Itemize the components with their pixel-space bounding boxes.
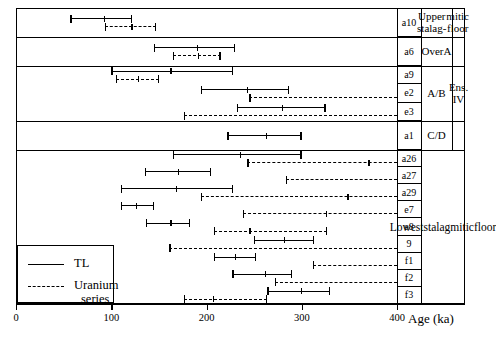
ensemble-label-lowest-stalagmitic-floor-line: stalagmitic [424, 215, 474, 239]
range-cap-low [173, 52, 174, 60]
legend-entry-tl: TL [26, 257, 89, 271]
range-center-tick [326, 211, 327, 217]
row-label-f3: f3 [397, 287, 421, 304]
ensemble-label-lowest-stalagmitic-floor-line: floor [474, 215, 496, 239]
range-cap-high [158, 75, 159, 83]
unit-label-a-b: A/B [421, 66, 452, 121]
range-cap-low [121, 185, 122, 193]
uranium-series-bar-e2 [249, 93, 397, 102]
unit-label-upper-stalagmitic-floor-line: mitic floor [446, 11, 469, 35]
range-cap-low [313, 261, 314, 269]
unit-label-over-a-line: Over [422, 46, 444, 58]
range-cap-high [234, 44, 235, 52]
uranium-series-range-line [313, 265, 397, 266]
range-cap-low [116, 75, 117, 83]
uranium-series-range-line [169, 248, 397, 249]
range-cap-high [210, 168, 211, 176]
legend-line-dashed-icon [26, 281, 66, 291]
uranium-series-bar-a6 [173, 51, 221, 60]
row-label-a27: a27 [397, 167, 421, 184]
ensemble-label-lowest-stalagmitic-floor-line: Lowest [390, 215, 424, 239]
range-cap-low [247, 159, 248, 167]
range-cap-high [329, 287, 330, 295]
range-center-tick [176, 186, 177, 192]
range-center-tick [249, 228, 250, 234]
row-label-a29: a29 [397, 184, 421, 201]
uranium-series-range-line [275, 282, 397, 283]
x-axis-tick-label-300: 300 [282, 312, 322, 323]
uranium-series-bar-e3 [184, 111, 397, 120]
range-center-tick [301, 288, 302, 294]
uranium-series-bar-a10 [105, 22, 156, 31]
range-cap-low [214, 253, 215, 261]
row-label-e3: e3 [397, 103, 421, 121]
range-cap-high [219, 52, 220, 60]
tl-bar-a27 [145, 167, 212, 176]
x-axis-tick [397, 305, 398, 310]
range-cap-low [70, 15, 71, 23]
unit-label-over-a-line: A [444, 46, 452, 58]
x-axis-tick-label-200: 200 [187, 312, 227, 323]
row-label-a26: a26 [397, 150, 421, 167]
range-cap-low [146, 219, 147, 227]
uranium-series-range-line [184, 299, 268, 300]
uranium-series-range-line [214, 231, 327, 232]
legend: TL Uranium series [17, 245, 114, 303]
x-axis-tick [302, 305, 303, 310]
range-center-tick [265, 271, 266, 277]
uranium-series-bar-e8 [214, 227, 327, 236]
range-center-tick [235, 254, 236, 260]
tl-range-line [121, 205, 154, 206]
uranium-series-bar-9 [169, 244, 397, 253]
row-label-f2: f2 [397, 270, 421, 287]
uranium-series-bar-a29 [201, 192, 397, 201]
tl-range-line [173, 154, 302, 155]
range-center-tick [284, 237, 285, 243]
uranium-series-bar-f1 [313, 261, 397, 270]
legend-line-solid-icon [26, 259, 66, 269]
legend-label-series: series [74, 293, 109, 307]
range-cap-low [105, 23, 106, 31]
range-cap-high [255, 253, 256, 261]
range-cap-low [286, 176, 287, 184]
range-center-tick [368, 160, 369, 166]
range-center-tick [197, 45, 198, 51]
range-cap-low [184, 295, 185, 303]
range-center-tick [213, 296, 214, 302]
tl-bar-f1 [214, 253, 256, 262]
range-cap-low [249, 94, 250, 102]
range-cap-low [227, 132, 228, 140]
legend-entry-uranium-series: Uranium series [26, 279, 118, 306]
range-cap-low [121, 202, 122, 210]
uranium-series-bar-e7 [243, 209, 397, 218]
legend-label-uranium: Uranium [74, 278, 118, 292]
ensemble-label-ens-iv: Ens. IV [452, 37, 465, 150]
row-label-e2: e2 [397, 84, 421, 102]
range-cap-low [173, 151, 174, 159]
range-center-tick [247, 87, 248, 93]
range-cap-low [267, 287, 268, 295]
range-center-tick [266, 133, 267, 139]
range-cap-high [266, 295, 267, 303]
range-cap-high [232, 67, 233, 75]
range-center-tick [198, 53, 199, 59]
uranium-series-bar-f2 [275, 278, 397, 287]
range-cap-low [275, 278, 276, 286]
range-center-tick [170, 68, 171, 74]
uranium-series-bar-a9 [116, 75, 159, 84]
tl-range-line [146, 223, 191, 224]
tl-bar-e8 [146, 219, 191, 228]
unit-label-over-a: OverA [421, 37, 452, 66]
tl-range-line [232, 274, 292, 275]
range-cap-low [154, 44, 155, 52]
legend-label-uranium-series: Uranium series [74, 279, 118, 306]
uranium-series-range-line [243, 213, 397, 214]
range-cap-low [145, 168, 146, 176]
uranium-series-range-line [247, 162, 397, 163]
range-center-tick [170, 220, 171, 226]
range-center-tick [136, 203, 137, 209]
range-cap-low [201, 193, 202, 201]
tl-range-line [267, 291, 330, 292]
x-axis-tick-label-0: 0 [0, 312, 36, 323]
